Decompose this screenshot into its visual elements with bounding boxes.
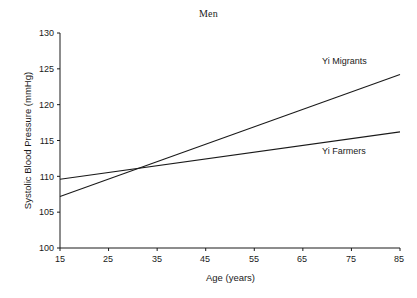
series-lines: [60, 75, 400, 197]
series-line-yi-migrants: [60, 75, 400, 197]
series-line-yi-farmers: [60, 132, 400, 179]
plot-area: [0, 0, 417, 298]
chart-figure: Men Systolic Blood Pressure (mmHg) Age (…: [0, 0, 417, 298]
